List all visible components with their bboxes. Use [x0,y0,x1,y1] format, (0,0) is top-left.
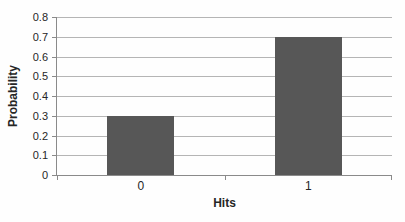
y-axis-tick [52,116,57,117]
bar-1 [275,37,342,175]
y-axis-tick-label: 0.8 [2,11,48,23]
y-axis-tick [52,57,57,58]
x-category-label: 1 [288,180,328,193]
x-category-label: 0 [121,180,161,193]
plot-area [56,17,392,176]
y-axis-tick-label: 0.6 [2,51,48,63]
bar-0 [107,116,174,175]
x-axis-tick [391,176,392,180]
y-gridline [57,17,392,18]
y-gridline [57,76,392,77]
bar-chart: Probability Hits 00.10.20.30.40.50.60.70… [0,0,405,222]
y-axis-tick [52,76,57,77]
y-gridline [57,37,392,38]
y-gridline [57,96,392,97]
y-axis-tick-label: 0.2 [2,130,48,142]
y-axis-tick [52,37,57,38]
y-axis-tick-label: 0.3 [2,110,48,122]
y-axis-tick-label: 0.1 [2,149,48,161]
x-axis-tick [225,176,226,180]
y-axis-tick [52,17,57,18]
y-axis-tick [52,136,57,137]
y-axis-tick-label: 0.5 [2,70,48,82]
y-gridline [57,57,392,58]
x-axis-tick [57,176,58,180]
y-axis-tick [52,96,57,97]
y-axis-tick-label: 0.7 [2,31,48,43]
y-axis-tick-label: 0 [2,169,48,181]
y-axis-tick [52,155,57,156]
y-axis-tick-label: 0.4 [2,90,48,102]
x-axis-title: Hits [57,196,392,210]
